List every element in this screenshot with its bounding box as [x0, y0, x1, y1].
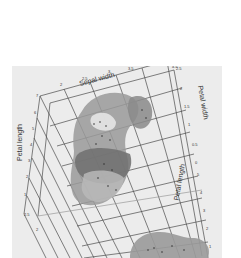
- svg-text:5: 5: [32, 126, 35, 131]
- iris-3d-plot: Sepal width Petal length Petal width Pet…: [12, 66, 222, 258]
- right-upper-axis-ticks: 2.5 2 1.5 1 0.5 0: [176, 66, 198, 165]
- svg-text:0: 0: [195, 160, 198, 165]
- svg-text:2.5: 2.5: [176, 66, 182, 71]
- axis-label-petal-length-right: Petal length: [173, 163, 187, 201]
- svg-text:2.5: 2.5: [24, 212, 30, 217]
- svg-text:2.5: 2.5: [82, 76, 88, 81]
- svg-text:1: 1: [24, 192, 27, 197]
- svg-text:2: 2: [206, 226, 209, 231]
- svg-text:3.5: 3.5: [128, 66, 134, 71]
- svg-text:6: 6: [34, 110, 37, 115]
- svg-text:3: 3: [203, 208, 206, 213]
- svg-text:0.5: 0.5: [192, 142, 198, 147]
- svg-text:1: 1: [209, 244, 212, 249]
- axis-label-petal-width: Petal width: [197, 85, 210, 120]
- axis-label-petal-length-left: Petal length: [16, 124, 24, 161]
- right-lower-axis-ticks: 5 4 3 2 1: [197, 172, 212, 249]
- top-axis-ticks: 2 2.5 3 3.5 4 4.5: [60, 66, 178, 87]
- svg-text:1: 1: [188, 122, 191, 127]
- svg-text:7: 7: [36, 93, 39, 98]
- svg-text:5: 5: [197, 172, 200, 177]
- svg-text:2: 2: [36, 227, 39, 232]
- svg-text:2: 2: [60, 82, 63, 87]
- svg-text:3: 3: [28, 158, 31, 163]
- svg-text:4: 4: [30, 142, 33, 147]
- axis-labels: Sepal width Petal length Petal width Pet…: [12, 66, 222, 258]
- svg-text:2: 2: [180, 86, 183, 91]
- svg-text:1.5: 1.5: [184, 104, 190, 109]
- left-axis-ticks: 7 6 5 4 3 2 1 2.5 2: [24, 93, 39, 232]
- svg-text:2: 2: [26, 174, 29, 179]
- svg-text:4: 4: [200, 190, 203, 195]
